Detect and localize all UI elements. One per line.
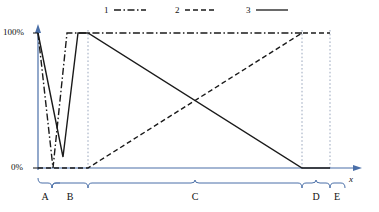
x-axis-label: x <box>349 174 353 184</box>
region-label-d: D <box>312 191 319 202</box>
region-label-b: B <box>67 191 74 202</box>
region-label-e: E <box>334 191 340 202</box>
y-axis <box>33 24 41 170</box>
series-3-solid <box>38 33 330 168</box>
region-label-c: C <box>192 191 199 202</box>
region-braces <box>38 178 345 188</box>
y-tick-label-0: 0% <box>11 162 23 172</box>
series-2-dashed <box>38 33 330 168</box>
chart-container: 1 2 3 <box>0 0 379 212</box>
grid-lines <box>88 30 330 170</box>
plot-area <box>0 0 379 212</box>
y-tick-label-100: 100% <box>3 27 24 37</box>
region-label-a: A <box>41 191 48 202</box>
series-1-dash-dot <box>38 33 302 168</box>
